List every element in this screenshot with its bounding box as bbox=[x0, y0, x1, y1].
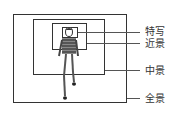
closeup-label: 特写 bbox=[145, 26, 165, 37]
medium-closeup-label: 近景 bbox=[145, 38, 165, 49]
closeup-leader-line bbox=[78, 32, 140, 33]
medium-leader-line bbox=[105, 70, 140, 71]
walking-person-figure bbox=[55, 26, 85, 102]
medium-label: 中景 bbox=[145, 65, 165, 76]
full-leader-line bbox=[127, 98, 140, 99]
full-label: 全景 bbox=[145, 93, 165, 104]
medium-closeup-leader-line bbox=[87, 43, 140, 44]
